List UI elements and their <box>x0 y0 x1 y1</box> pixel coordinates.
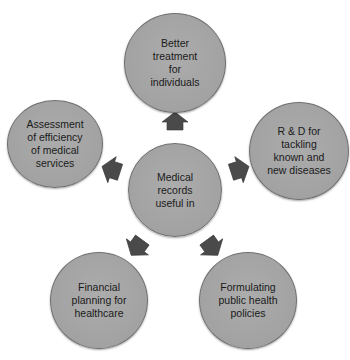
node-efficiency-assessment: Assessment of efficiency of medical serv… <box>7 100 103 188</box>
medical-records-diagram: Medical records useful in Better treatme… <box>0 0 350 360</box>
center-node-label: Medical records useful in <box>155 171 194 210</box>
node-label: Formulating public health policies <box>219 281 278 320</box>
node-research-development: R & D for tackling known and new disease… <box>249 102 349 200</box>
center-node: Medical records useful in <box>128 143 222 237</box>
arrow-left-icon <box>98 153 124 185</box>
node-public-health-policies: Formulating public health policies <box>199 252 297 349</box>
node-better-treatment: Better treatment for individuals <box>124 13 226 113</box>
node-label: Financial planning for healthcare <box>72 281 127 320</box>
node-financial-planning: Financial planning for healthcare <box>50 252 148 349</box>
node-label: R & D for tackling known and new disease… <box>267 125 331 177</box>
node-label: Better treatment for individuals <box>150 37 199 89</box>
arrow-up-icon <box>162 112 188 130</box>
node-label: Assessment of efficiency of medical serv… <box>26 118 83 170</box>
